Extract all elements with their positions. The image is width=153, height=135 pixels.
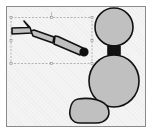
resize-handle-middle-left[interactable] [10,40,12,42]
forearm-shape[interactable] [31,30,54,43]
upper-arm-shape[interactable] [54,36,83,55]
resize-handle-middle-right[interactable] [91,40,93,42]
resize-handle-top-center[interactable] [51,17,53,19]
neck-shape[interactable] [108,46,120,55]
drawing-layer [0,0,153,135]
foot-shape[interactable] [70,98,109,123]
resize-handle-bottom-right[interactable] [91,63,93,65]
head-shape[interactable] [95,8,133,46]
resize-handle-top-right[interactable] [91,17,93,19]
resize-handle-bottom-center[interactable] [51,63,53,65]
resize-handle-top-left[interactable] [10,17,12,19]
resize-handle-bottom-left[interactable] [10,63,12,65]
hand-shape[interactable] [12,21,32,34]
shoulder-dot[interactable] [80,48,88,56]
